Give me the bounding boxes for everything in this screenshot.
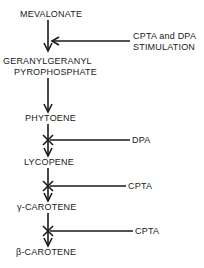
node-ggpp-line1: GERANYLGERANYL — [3, 56, 92, 66]
node-beta-carotene: β-CAROTENE — [16, 247, 76, 257]
effector-cpta-2: CPTA — [135, 226, 159, 236]
effector-stimulation-line2: STIMULATION — [133, 42, 195, 52]
effector-cpta-1: CPTA — [128, 181, 152, 191]
node-gamma-carotene: γ-CAROTENE — [17, 202, 77, 212]
effector-dpa: DPA — [132, 135, 150, 145]
node-mevalonate: MEVALONATE — [20, 9, 82, 19]
node-ggpp-line2: PYROPHOSPHATE — [14, 67, 97, 77]
node-phytoene: PHYTOENE — [25, 113, 76, 123]
node-lycopene: LYCOPENE — [24, 157, 74, 167]
effector-stimulation-line1: CPTA and DPA — [133, 31, 196, 41]
